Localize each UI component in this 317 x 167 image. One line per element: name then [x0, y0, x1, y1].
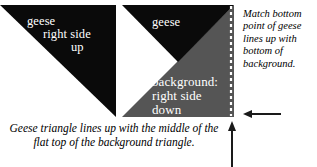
left-figure-label-line-3: up: [27, 41, 91, 54]
bottom-annotation-note: Geese triangle lines up with the middle …: [0, 122, 228, 149]
diagram-canvas: geese right side up geese background: ri…: [0, 0, 317, 167]
middle-background-label-line-2: right side: [152, 89, 218, 103]
right-annotation-note: Match bottom point of geese lines up wit…: [243, 8, 317, 70]
middle-background-label-line-1: background:: [152, 75, 218, 89]
bottom-annotation-line-2: flat top of the background triangle.: [0, 136, 228, 150]
middle-background-label-line-3: down: [152, 103, 218, 117]
left-figure-label: geese right side up: [27, 15, 91, 54]
bottom-edge-pointer-arrow: [243, 110, 281, 118]
bottom-annotation-line-1: Geese triangle lines up with the middle …: [0, 122, 228, 136]
middle-geese-label: geese: [152, 16, 180, 29]
middle-background-label: background: right side down: [152, 75, 218, 117]
right-edge-pointer-arrow: [228, 121, 236, 167]
